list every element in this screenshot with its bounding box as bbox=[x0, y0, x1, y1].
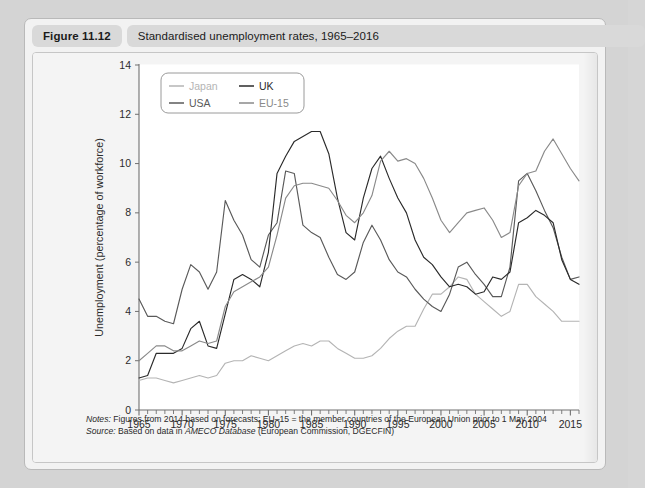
figure-caption-row: Figure 11.12 Standardised unemployment r… bbox=[32, 25, 645, 47]
source-database-name: AMECO Database bbox=[185, 426, 256, 436]
source-text-pre: Based on data in bbox=[116, 426, 185, 436]
legend-label-uk: UK bbox=[259, 80, 274, 92]
y-axis-title-text: Unemployment (percentage of workforce) bbox=[93, 138, 105, 337]
notes-text: Figures from 2014 based on forecasts; EU… bbox=[111, 414, 547, 424]
legend-label-eu-15: EU-15 bbox=[259, 97, 289, 109]
legend-label-usa: USA bbox=[189, 97, 211, 109]
legend-label-japan: Japan bbox=[189, 80, 218, 92]
y-tick-label: 10 bbox=[119, 157, 131, 169]
figure-card: Figure 11.12 Standardised unemployment r… bbox=[24, 18, 606, 470]
y-tick-label: 14 bbox=[119, 59, 131, 71]
source-line: Source: Based on data in AMECO Database … bbox=[86, 426, 586, 438]
chart-legend: JapanUKUSAEU-15 bbox=[161, 73, 304, 113]
figure-title-pill: Standardised unemployment rates, 1965–20… bbox=[127, 25, 645, 47]
y-tick-label: 4 bbox=[125, 305, 131, 317]
chart-panel: 0246810121419651970197519801985199019952… bbox=[32, 52, 598, 463]
y-axis-title: Unemployment (percentage of workforce) bbox=[93, 138, 105, 337]
notes-label: Notes: bbox=[86, 414, 111, 424]
source-text-post: (European Commission, DGECFIN) bbox=[256, 426, 395, 436]
y-tick-label: 12 bbox=[119, 108, 131, 120]
unemployment-line-chart: 0246810121419651970197519801985199019952… bbox=[33, 53, 597, 462]
notes-line: Notes: Figures from 2014 based on foreca… bbox=[86, 414, 586, 426]
figure-number-pill: Figure 11.12 bbox=[32, 25, 122, 47]
y-tick-label: 2 bbox=[125, 354, 131, 366]
y-tick-label: 6 bbox=[125, 256, 131, 268]
y-tick-label: 8 bbox=[125, 206, 131, 218]
source-label: Source: bbox=[86, 426, 116, 436]
figure-notes: Notes: Figures from 2014 based on foreca… bbox=[86, 414, 586, 437]
